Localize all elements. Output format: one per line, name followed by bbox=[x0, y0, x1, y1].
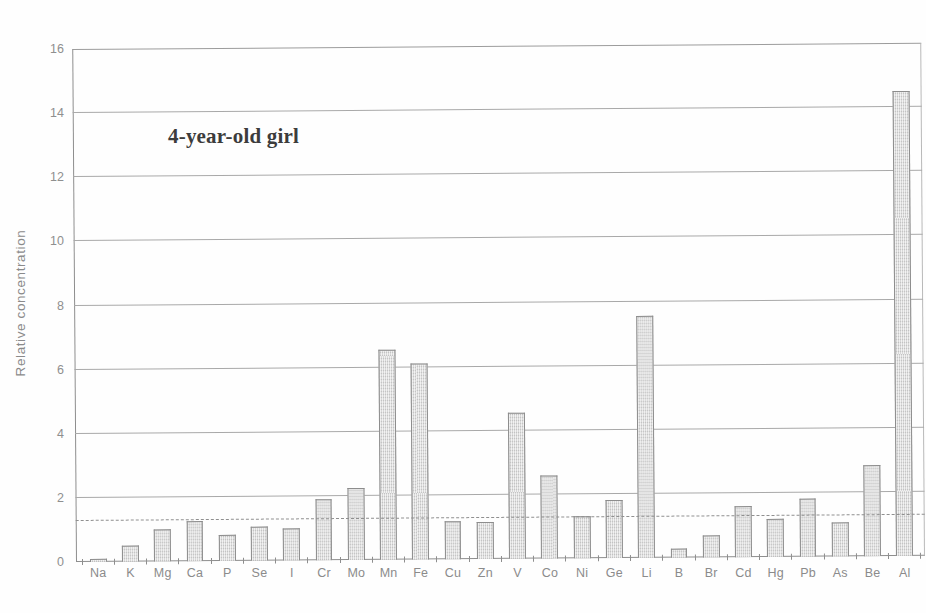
bar-slot bbox=[659, 44, 695, 557]
x-label-P: P bbox=[211, 566, 243, 580]
y-axis-tick-4: 4 bbox=[30, 428, 64, 440]
x-label-Cr: Cr bbox=[308, 566, 340, 580]
bar-slot bbox=[724, 44, 760, 557]
x-tick-Se bbox=[243, 554, 275, 561]
x-label-Mo: Mo bbox=[340, 566, 372, 580]
x-tick-Mo bbox=[340, 553, 372, 560]
bar-Ge bbox=[606, 500, 623, 558]
x-label-B: B bbox=[663, 566, 695, 580]
x-axis-category-labels: NaKMgCaPSeICrMoMnFeCuZnVCoNiGeLiBBrCdHgP… bbox=[76, 566, 925, 580]
x-tick-Al bbox=[889, 549, 921, 556]
x-label-Hg: Hg bbox=[760, 566, 792, 580]
y-axis-tick-14: 14 bbox=[30, 107, 64, 119]
x-tick-Cd bbox=[727, 550, 759, 557]
x-tick-V bbox=[501, 552, 533, 559]
bar-Fe bbox=[411, 364, 429, 560]
x-tick-As bbox=[824, 549, 856, 556]
x-label-Cu: Cu bbox=[437, 566, 469, 580]
bar-slot bbox=[111, 48, 147, 561]
bar-slot bbox=[691, 44, 727, 557]
x-label-Se: Se bbox=[243, 566, 275, 580]
bar-series bbox=[72, 43, 925, 562]
bar-slot bbox=[627, 45, 663, 558]
x-tick-Mg bbox=[146, 554, 178, 561]
y-axis-tick-16: 16 bbox=[30, 43, 64, 55]
x-label-Fe: Fe bbox=[405, 566, 437, 580]
bar-slot bbox=[885, 43, 921, 556]
x-label-Co: Co bbox=[534, 566, 566, 580]
bar-Al bbox=[893, 91, 913, 556]
bar-Li bbox=[636, 316, 655, 558]
bar-slot bbox=[562, 45, 598, 558]
y-axis-tick-6: 6 bbox=[30, 364, 64, 376]
x-tick-B bbox=[663, 550, 695, 557]
x-label-I: I bbox=[276, 566, 308, 580]
bar-slot bbox=[820, 43, 856, 556]
x-tick-Br bbox=[695, 550, 727, 557]
bar-slot bbox=[756, 44, 792, 557]
bar-slot bbox=[433, 46, 469, 559]
x-tick-Zn bbox=[469, 552, 501, 559]
plot-skew-group bbox=[72, 43, 925, 562]
bar-Cr bbox=[315, 499, 332, 560]
x-tick-Ge bbox=[598, 551, 630, 558]
y-axis-tick-8: 8 bbox=[30, 300, 64, 312]
x-label-Pb: Pb bbox=[792, 566, 824, 580]
bar-Be bbox=[863, 465, 880, 556]
y-axis-tick-10: 10 bbox=[30, 235, 64, 247]
x-tick-Pb bbox=[792, 550, 824, 557]
x-tick-Na bbox=[82, 555, 114, 562]
x-tick-Cu bbox=[437, 552, 469, 559]
x-tick-P bbox=[211, 554, 243, 561]
x-label-Li: Li bbox=[631, 566, 663, 580]
x-tick-Hg bbox=[760, 550, 792, 557]
x-tick-Co bbox=[534, 551, 566, 558]
x-label-Mn: Mn bbox=[372, 566, 404, 580]
bar-Mo bbox=[347, 488, 364, 560]
bar-slot bbox=[530, 45, 566, 558]
x-tick-Li bbox=[630, 551, 662, 558]
x-label-Br: Br bbox=[695, 566, 727, 580]
bar-slot bbox=[401, 46, 437, 559]
bar-slot bbox=[498, 46, 534, 559]
y-axis-tick-12: 12 bbox=[30, 171, 64, 183]
chart-figure: Relative concentration 1614121086420 NaK… bbox=[0, 0, 926, 613]
y-axis-tick-0: 0 bbox=[30, 556, 64, 568]
x-tick-I bbox=[276, 553, 308, 560]
bar-slot bbox=[336, 47, 372, 560]
bar-Mn bbox=[379, 350, 397, 560]
x-tick-Mn bbox=[372, 553, 404, 560]
x-label-Mg: Mg bbox=[147, 566, 179, 580]
bar-slot bbox=[788, 44, 824, 557]
y-axis-title: Relative concentration bbox=[10, 47, 32, 560]
bar-slot bbox=[78, 49, 114, 562]
x-label-Cd: Cd bbox=[727, 566, 759, 580]
x-tick-K bbox=[114, 554, 146, 561]
bar-slot bbox=[369, 47, 405, 560]
bar-V bbox=[508, 413, 526, 559]
chart-annotation-label: 4-year-old girl bbox=[168, 124, 299, 149]
x-label-Ge: Ge bbox=[598, 566, 630, 580]
x-label-Ca: Ca bbox=[179, 566, 211, 580]
x-label-Zn: Zn bbox=[469, 566, 501, 580]
x-label-Ni: Ni bbox=[566, 566, 598, 580]
x-label-V: V bbox=[501, 566, 533, 580]
bar-slot bbox=[304, 47, 340, 560]
x-label-Be: Be bbox=[856, 566, 888, 580]
x-label-Na: Na bbox=[82, 566, 114, 580]
x-tick-Fe bbox=[405, 552, 437, 559]
bar-slot bbox=[853, 43, 889, 556]
y-axis-tick-2: 2 bbox=[30, 492, 64, 504]
x-tick-Cr bbox=[308, 553, 340, 560]
x-tick-Ni bbox=[566, 551, 598, 558]
x-label-As: As bbox=[824, 566, 856, 580]
x-label-K: K bbox=[114, 566, 146, 580]
bar-slot bbox=[594, 45, 630, 558]
y-axis-tick-labels: 1614121086420 bbox=[30, 49, 64, 562]
bar-Pb bbox=[799, 499, 816, 557]
bar-slot bbox=[465, 46, 501, 559]
x-tick-Ca bbox=[179, 554, 211, 561]
x-label-Al: Al bbox=[889, 566, 921, 580]
x-tick-Be bbox=[856, 549, 888, 556]
